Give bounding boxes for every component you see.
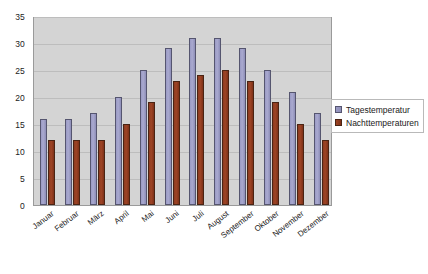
x-tick-label: April	[113, 209, 131, 226]
x-tick-label: Mai	[140, 209, 156, 224]
bar-night	[123, 124, 130, 205]
y-tick-label: 10	[15, 147, 25, 157]
bars-layer	[34, 18, 331, 205]
bar-night	[297, 124, 304, 205]
bar-day	[214, 38, 221, 205]
bar-day	[239, 48, 246, 205]
bar-group	[289, 18, 304, 205]
bar-chart: 05101520253035 JanuarFebruarMärzAprilMai…	[0, 0, 428, 274]
x-tick: Juni	[163, 209, 180, 225]
x-tick: Juli	[190, 209, 205, 223]
bar-night	[98, 140, 105, 205]
bar-day	[314, 113, 321, 205]
bar-night	[322, 140, 329, 205]
bar-night	[247, 81, 254, 205]
x-tick: Februar	[53, 209, 81, 233]
bar-day	[40, 119, 47, 205]
bar-night	[222, 70, 229, 205]
x-axis: JanuarFebruarMärzAprilMaiJuniJuliAugustS…	[0, 206, 428, 266]
bar-night	[173, 81, 180, 205]
y-axis: 05101520253035	[0, 17, 29, 206]
bar-day	[115, 97, 122, 205]
bar-group	[214, 18, 229, 205]
bar-day	[189, 38, 196, 205]
x-tick-label: Juli	[190, 209, 205, 223]
bar-group	[40, 18, 55, 205]
y-tick-label: 30	[15, 39, 25, 49]
bar-night	[197, 75, 204, 205]
legend-label: Tagestemperatur	[346, 105, 410, 115]
legend-item-night[interactable]: Nachttemperaturen	[335, 116, 419, 129]
legend-label: Nachttemperaturen	[346, 118, 419, 128]
bar-group	[115, 18, 130, 205]
plot-area	[33, 17, 332, 206]
y-tick-label: 5	[20, 174, 25, 184]
bar-group	[189, 18, 204, 205]
x-tick-label: Juni	[163, 209, 180, 225]
x-tick-label: Februar	[53, 209, 81, 233]
x-tick: März	[86, 209, 106, 227]
y-tick-label: 20	[15, 93, 25, 103]
bar-day	[90, 113, 97, 205]
bar-group	[264, 18, 279, 205]
bar-group	[65, 18, 80, 205]
x-tick-label: Januar	[31, 209, 56, 231]
legend-item-day[interactable]: Tagestemperatur	[335, 103, 419, 116]
bar-night	[148, 102, 155, 205]
bar-day	[140, 70, 147, 205]
bar-group	[239, 18, 254, 205]
x-tick-label: März	[86, 209, 106, 227]
chart-legend: TagestemperaturNachttemperaturen	[331, 99, 424, 133]
x-tick: April	[113, 209, 131, 226]
bar-group	[165, 18, 180, 205]
y-tick-label: 25	[15, 66, 25, 76]
bar-day	[289, 92, 296, 205]
x-tick: Mai	[140, 209, 156, 224]
y-tick-label: 15	[15, 120, 25, 130]
legend-swatch-day-icon	[335, 106, 342, 113]
bar-group	[140, 18, 155, 205]
bar-day	[165, 48, 172, 205]
bar-night	[48, 140, 55, 205]
bar-group	[90, 18, 105, 205]
x-tick: Januar	[31, 209, 56, 231]
legend-swatch-night-icon	[335, 119, 342, 126]
bar-day	[65, 119, 72, 205]
y-tick-label: 35	[15, 12, 25, 22]
bar-group	[314, 18, 329, 205]
bar-day	[264, 70, 271, 205]
bar-night	[272, 102, 279, 205]
bar-night	[73, 140, 80, 205]
